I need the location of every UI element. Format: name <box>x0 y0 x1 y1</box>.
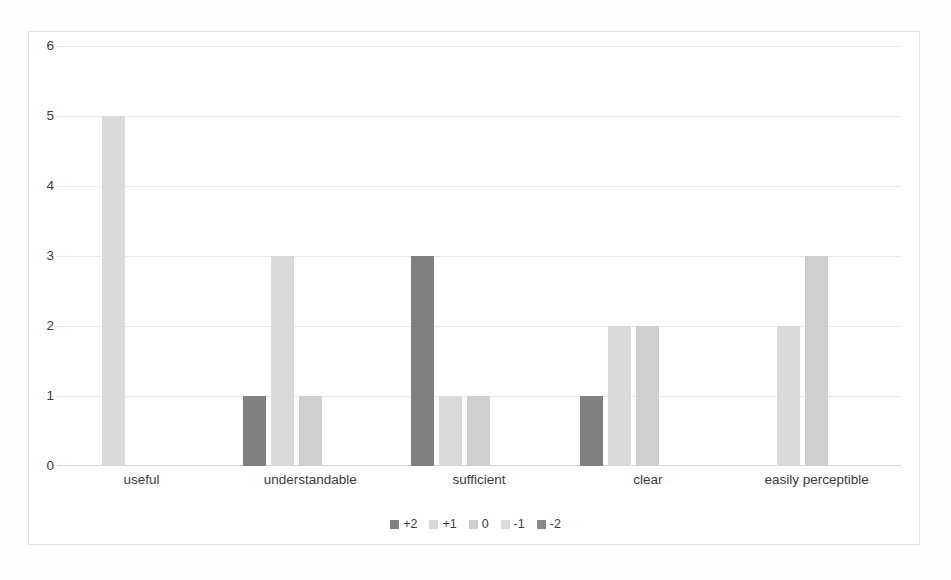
bar-slot <box>158 46 181 466</box>
bar-group <box>563 46 732 466</box>
legend-label: +2 <box>403 518 417 531</box>
bar[interactable] <box>243 396 266 466</box>
bar-slot <box>608 46 631 466</box>
x-axis-category-label: sufficient <box>395 472 564 487</box>
x-axis-category-label: useful <box>57 472 226 487</box>
bar-slot <box>580 46 603 466</box>
bar-slot <box>467 46 490 466</box>
bar[interactable] <box>777 326 800 466</box>
bar-groups <box>57 46 901 466</box>
bar-slot <box>749 46 772 466</box>
bar[interactable] <box>102 116 125 466</box>
plot-area <box>57 46 901 466</box>
y-axis-tick-label: 5 <box>46 109 54 123</box>
legend-label: -2 <box>550 518 561 531</box>
chart-screenshot: 0123456 usefulunderstandablesufficientcl… <box>0 0 951 580</box>
y-axis-tick-label: 4 <box>46 179 54 193</box>
y-axis-tick-labels: 0123456 <box>30 46 54 466</box>
bar[interactable] <box>271 256 294 466</box>
bar[interactable] <box>467 396 490 466</box>
legend-swatch-icon <box>469 520 478 529</box>
y-axis-tick-label: 0 <box>46 459 54 473</box>
legend-label: +1 <box>442 518 456 531</box>
bar-slot <box>833 46 856 466</box>
bar-slot <box>299 46 322 466</box>
bar[interactable] <box>299 396 322 466</box>
legend-item[interactable]: -1 <box>501 518 525 531</box>
bar-slot <box>102 46 125 466</box>
bar[interactable] <box>580 396 603 466</box>
legend-swatch-icon <box>537 520 546 529</box>
bar-slot <box>186 46 209 466</box>
legend-item[interactable]: -2 <box>537 518 561 531</box>
legend-swatch-icon <box>390 520 399 529</box>
x-axis-category-label: understandable <box>226 472 395 487</box>
legend-item[interactable]: +2 <box>390 518 417 531</box>
bar[interactable] <box>805 256 828 466</box>
bar[interactable] <box>636 326 659 466</box>
bar-slot <box>439 46 462 466</box>
bar-slot <box>664 46 687 466</box>
bar-slot <box>355 46 378 466</box>
bar-slot <box>327 46 350 466</box>
bar-group <box>57 46 226 466</box>
bar-group <box>395 46 564 466</box>
bar-slot <box>692 46 715 466</box>
bar-slot <box>805 46 828 466</box>
y-axis-tick-label: 2 <box>46 319 54 333</box>
bar-slot <box>130 46 153 466</box>
legend-swatch-icon <box>501 520 510 529</box>
x-axis-category-label: easily perceptible <box>732 472 901 487</box>
legend-item[interactable]: +1 <box>429 518 456 531</box>
bar-slot <box>74 46 97 466</box>
y-axis-tick-label: 1 <box>46 389 54 403</box>
bar-slot <box>271 46 294 466</box>
x-axis-category-label: clear <box>563 472 732 487</box>
legend-label: -1 <box>514 518 525 531</box>
y-axis-tick-label: 3 <box>46 249 54 263</box>
x-axis-category-labels: usefulunderstandablesufficientcleareasil… <box>57 472 901 487</box>
bar-slot <box>243 46 266 466</box>
legend-label: 0 <box>482 518 489 531</box>
bar-slot <box>411 46 434 466</box>
bar-slot <box>861 46 884 466</box>
legend-item[interactable]: 0 <box>469 518 489 531</box>
legend-swatch-icon <box>429 520 438 529</box>
legend: +2+10-1-2 <box>0 518 951 531</box>
y-axis-tick-label: 6 <box>46 39 54 53</box>
bar-slot <box>523 46 546 466</box>
bar-slot <box>636 46 659 466</box>
bar[interactable] <box>411 256 434 466</box>
bar-slot <box>495 46 518 466</box>
bar-group <box>732 46 901 466</box>
bar[interactable] <box>608 326 631 466</box>
bar-slot <box>777 46 800 466</box>
bar[interactable] <box>439 396 462 466</box>
bar-group <box>226 46 395 466</box>
